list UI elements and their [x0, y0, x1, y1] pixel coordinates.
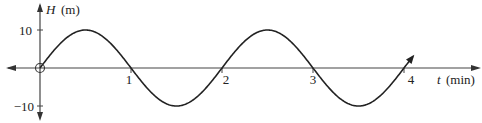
- x-tick-label-3: 3: [310, 72, 317, 87]
- y-tick-label-10: 10: [19, 23, 32, 38]
- x-tick-label-4: 4: [408, 72, 415, 87]
- x-axis-label: t: [437, 72, 441, 87]
- x-tick-label-1: 1: [126, 72, 133, 87]
- chart: H (m) 10 −10 1 2 3 4 t (min): [0, 0, 482, 123]
- x-tick-label-2: 2: [223, 72, 230, 87]
- y-axis-up-arrow-icon: [37, 3, 43, 12]
- x-axis-unit: (min): [446, 72, 475, 87]
- y-axis-label: H: [45, 2, 56, 17]
- x-axis-right-arrow-icon: [471, 65, 481, 71]
- y-axis-down-arrow-icon: [37, 112, 43, 121]
- y-tick-label-neg10: −10: [14, 99, 34, 114]
- y-axis-unit: (m): [61, 2, 80, 17]
- x-axis-left-arrow-icon: [6, 65, 16, 71]
